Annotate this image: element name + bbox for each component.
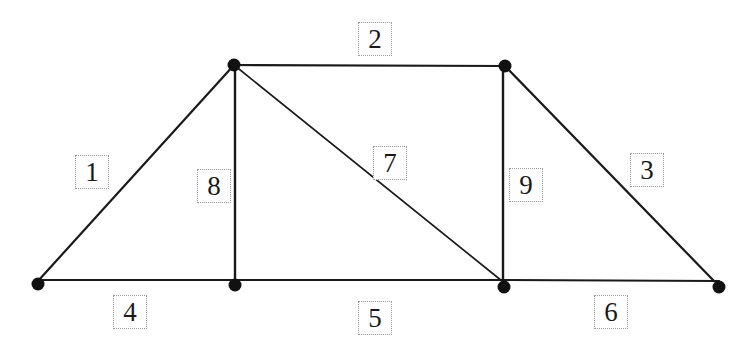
member-label-1: 1 bbox=[75, 155, 109, 189]
member-label-6: 6 bbox=[594, 295, 628, 329]
member-label-5-text: 5 bbox=[368, 305, 382, 332]
node-B bbox=[229, 279, 242, 292]
node-A bbox=[32, 278, 45, 291]
member-2 bbox=[234, 65, 505, 66]
member-label-5: 5 bbox=[358, 301, 392, 335]
member-label-2-text: 2 bbox=[368, 26, 382, 53]
node-C bbox=[498, 281, 511, 294]
member-label-3: 3 bbox=[630, 153, 664, 187]
member-6 bbox=[504, 280, 719, 281]
member-label-6-text: 6 bbox=[604, 299, 618, 326]
member-label-8-text: 8 bbox=[207, 173, 221, 200]
member-label-7-text: 7 bbox=[383, 150, 397, 177]
member-label-4-text: 4 bbox=[123, 299, 137, 326]
member-label-9: 9 bbox=[509, 168, 543, 202]
node-E bbox=[228, 59, 241, 72]
node-D bbox=[713, 281, 726, 294]
node-F bbox=[499, 60, 512, 73]
member-label-9-text: 9 bbox=[519, 172, 533, 199]
member-7 bbox=[234, 65, 502, 281]
member-label-1-text: 1 bbox=[85, 159, 99, 186]
truss-diagram: 1 2 3 4 5 6 7 8 9 bbox=[0, 0, 749, 354]
member-label-2: 2 bbox=[358, 22, 392, 56]
member-label-3-text: 3 bbox=[640, 157, 654, 184]
member-label-8: 8 bbox=[197, 169, 231, 203]
member-label-4: 4 bbox=[113, 295, 147, 329]
member-label-7: 7 bbox=[373, 146, 407, 180]
